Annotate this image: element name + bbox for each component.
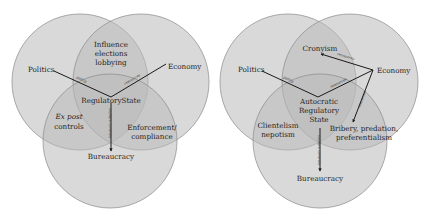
autocratic-label: Autocratic xyxy=(299,97,338,106)
bribery-label: Bribery, predation, xyxy=(330,124,399,133)
enforcement-label: Enforcement/ xyxy=(127,123,177,132)
controls-edge-label: capture controls xyxy=(108,108,112,138)
economy-label: Economy xyxy=(377,66,411,75)
compliance-label: compliance xyxy=(131,132,173,141)
right-venn-diagram: Politics Economy Bureaucracy Autocratic … xyxy=(220,14,418,208)
influence-label: Influence xyxy=(94,40,128,49)
politics-label: Politics xyxy=(28,65,55,74)
regulatory-state-label: RegulatoryState xyxy=(81,96,140,105)
lobbying-label: lobbying xyxy=(95,58,127,67)
bureaucracy-circle xyxy=(43,74,177,208)
nepotism-label: nepotism xyxy=(261,130,295,139)
elections-label: elections xyxy=(95,49,128,58)
economy-label: Economy xyxy=(168,62,202,71)
controls-label: controls xyxy=(54,122,84,131)
controls-edge-label: capture controls xyxy=(317,135,321,165)
preferentialism-label: preferentialism xyxy=(336,133,392,142)
venn-diagram-figure: Politics Economy Bureaucracy RegulatoryS… xyxy=(0,0,430,218)
bureaucracy-label: Bureaucracy xyxy=(88,152,135,161)
regulatory-label: Regulatory xyxy=(299,106,340,115)
cronyism-label: Cronyism xyxy=(303,44,338,53)
ex-post-label: Ex post xyxy=(54,112,82,121)
left-venn-diagram: Politics Economy Bureaucracy RegulatoryS… xyxy=(12,14,209,208)
state-label: State xyxy=(309,115,328,124)
clientelism-label: Clientelism xyxy=(257,121,298,130)
bureaucracy-label: Bureaucracy xyxy=(297,174,344,183)
politics-label: Politics xyxy=(238,65,265,74)
